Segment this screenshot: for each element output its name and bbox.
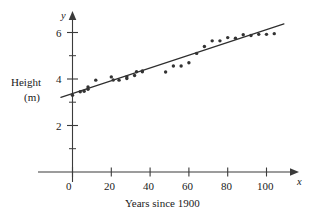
y-axis-title-line2: (m) xyxy=(24,91,40,104)
data-point xyxy=(226,36,229,39)
data-point xyxy=(218,39,221,42)
data-point xyxy=(79,90,82,93)
x-tick-label-60: 60 xyxy=(182,180,194,192)
data-point xyxy=(82,90,85,93)
data-point xyxy=(71,94,74,97)
data-point xyxy=(117,78,120,81)
data-point xyxy=(187,61,190,64)
y-tick-label-4: 4 xyxy=(56,73,62,85)
data-point xyxy=(210,39,213,42)
data-point xyxy=(94,78,97,81)
data-point xyxy=(172,64,175,67)
x-tick-label-80: 80 xyxy=(221,180,233,192)
x-axis-symbol: x xyxy=(296,176,302,187)
data-points-group xyxy=(71,32,276,97)
y-tick-label-6: 6 xyxy=(56,27,62,39)
data-point xyxy=(112,78,115,81)
data-point xyxy=(265,33,268,36)
x-axis-title: Years since 1900 xyxy=(125,197,200,209)
data-point xyxy=(179,64,182,67)
data-point xyxy=(195,52,198,55)
data-point xyxy=(86,85,89,88)
data-point xyxy=(203,45,206,48)
data-point xyxy=(164,70,167,73)
y-axis-arrow-icon xyxy=(69,11,77,20)
x-axis-arrow-icon xyxy=(290,168,299,176)
plot-canvas: y x 0 20 40 60 80 100 xyxy=(0,0,309,216)
x-tick-label-20: 20 xyxy=(104,180,116,192)
y-axis-title-line1: Height xyxy=(11,76,41,88)
data-point xyxy=(234,37,237,40)
scatter-plot-figure: y x 0 20 40 60 80 100 xyxy=(0,0,309,216)
x-tick-label-40: 40 xyxy=(143,180,155,192)
data-point xyxy=(110,75,113,78)
y-axis-symbol: y xyxy=(60,10,66,21)
data-point xyxy=(135,70,138,73)
x-tick-label-0: 0 xyxy=(66,180,72,192)
x-tick-label-100: 100 xyxy=(257,180,274,192)
data-point xyxy=(133,74,136,77)
data-point xyxy=(242,33,245,36)
data-point xyxy=(249,34,252,37)
data-point xyxy=(257,33,260,36)
data-point xyxy=(125,75,128,78)
y-tick-label-2: 2 xyxy=(56,120,62,132)
data-point xyxy=(273,32,276,35)
data-point xyxy=(141,69,144,72)
